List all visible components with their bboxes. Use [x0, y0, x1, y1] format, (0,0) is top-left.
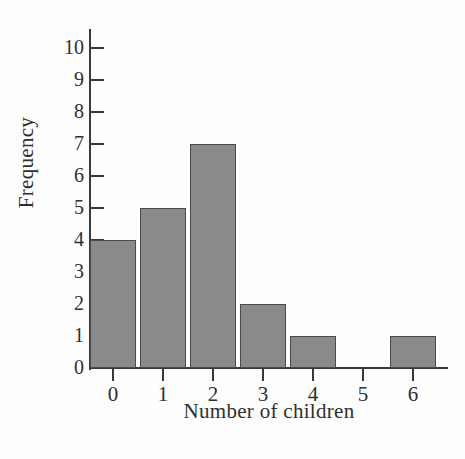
y-axis-tick-label: 4 [54, 229, 84, 249]
bar [290, 336, 336, 368]
y-axis-tick-label: 9 [54, 69, 84, 89]
x-axis-tick [412, 369, 414, 381]
y-axis-tick-label: 10 [54, 37, 84, 57]
y-axis-tick-label-wrap: 5 [52, 197, 84, 217]
y-axis-tick-label: 7 [54, 133, 84, 153]
y-axis-tick [91, 47, 104, 49]
x-axis-tick [362, 369, 364, 381]
y-axis-tick [91, 207, 104, 209]
y-axis-tick-label: 5 [54, 197, 84, 217]
y-axis-tick [91, 143, 104, 145]
y-axis-tick-label: 6 [54, 165, 84, 185]
bar-chart: Frequency 012345678910 0123456 Number of… [0, 0, 465, 459]
y-axis-tick [91, 175, 104, 177]
y-axis-tick-label-wrap: 3 [52, 261, 84, 281]
x-axis-tick [212, 369, 214, 381]
y-axis-tick-label: 2 [54, 293, 84, 313]
y-axis-tick-label: 3 [54, 261, 84, 281]
bar [90, 240, 136, 368]
bar [390, 336, 436, 368]
x-axis-title: Number of children [90, 399, 448, 424]
y-axis-tick-label-wrap: 9 [52, 69, 84, 89]
y-axis-tick-label-wrap: 4 [52, 229, 84, 249]
bar [240, 304, 286, 368]
y-axis-tick [91, 79, 104, 81]
y-axis-tick-label: 8 [54, 101, 84, 121]
y-axis-tick-label-wrap: 0 [52, 357, 84, 377]
y-axis-tick-label-wrap: 6 [52, 165, 84, 185]
y-axis-tick-label: 0 [54, 357, 84, 377]
y-axis-tick-label-wrap: 10 [52, 37, 84, 57]
y-axis-tick-label-wrap: 2 [52, 293, 84, 313]
y-axis-tick [91, 111, 104, 113]
y-axis-title: Frequency [14, 93, 39, 233]
y-axis-tick-label-wrap: 7 [52, 133, 84, 153]
x-axis-tick [312, 369, 314, 381]
bar [140, 208, 186, 368]
bar [190, 144, 236, 368]
x-axis-tick [112, 369, 114, 381]
y-axis-tick-label-wrap: 8 [52, 101, 84, 121]
x-axis-tick [162, 369, 164, 381]
y-axis-tick-label: 1 [54, 325, 84, 345]
x-axis-tick [262, 369, 264, 381]
y-axis-tick-label-wrap: 1 [52, 325, 84, 345]
